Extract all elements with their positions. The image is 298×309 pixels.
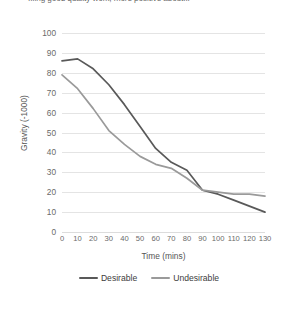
chart-plot-wrapper: Gravity (-1000) 1009080706050403020100 0… [0,11,298,309]
y-tick-label: 80 [28,69,56,77]
y-tick-label: 70 [28,89,56,97]
x-tick-label: 10 [73,235,81,243]
x-tick-label: 110 [228,235,240,243]
series-lines [62,33,265,232]
x-axis-tick-labels: 0102030405060708090100110120130 [62,235,265,249]
y-tick-label: 30 [28,168,56,176]
x-tick-label: 60 [151,235,159,243]
legend-line-icon [151,277,170,279]
x-tick-label: 130 [259,235,272,243]
legend-label: Undesirable [173,273,219,283]
chart-legend: DesirableUndesirable [0,273,298,283]
gridline [62,232,265,233]
y-tick-label: 60 [28,109,56,117]
caption-strip: ...ing good quality work, more positive … [0,0,298,11]
y-tick-label: 100 [28,29,56,37]
series-line-undesirable [62,75,265,196]
legend-item[interactable]: Undesirable [151,273,219,283]
chart-page: ...ing good quality work, more positive … [0,0,298,309]
legend-line-icon [79,277,98,279]
x-tick-label: 40 [120,235,128,243]
x-tick-label: 120 [243,235,256,243]
x-tick-label: 30 [105,235,113,243]
chart-card: Gravity (-1000) 1009080706050403020100 0… [0,11,298,309]
y-tick-label: 50 [28,129,56,137]
x-tick-label: 90 [198,235,206,243]
plot-area [62,33,265,232]
y-tick-label: 90 [28,49,56,57]
x-tick-label: 80 [183,235,191,243]
y-tick-label: 40 [28,148,56,156]
legend-label: Desirable [101,273,137,283]
legend-item[interactable]: Desirable [79,273,137,283]
y-tick-label: 0 [28,228,56,236]
x-tick-label: 50 [136,235,144,243]
series-line-desirable [62,59,265,212]
caption-text: ...ing good quality work, more positive … [28,0,278,3]
y-axis-tick-labels: 1009080706050403020100 [22,11,56,309]
y-tick-label: 10 [28,208,56,216]
x-tick-label: 70 [167,235,175,243]
x-tick-label: 20 [89,235,97,243]
y-tick-label: 20 [28,188,56,196]
x-axis-title: Time (mins) [62,251,265,261]
x-tick-label: 100 [212,235,225,243]
x-tick-label: 0 [60,235,64,243]
